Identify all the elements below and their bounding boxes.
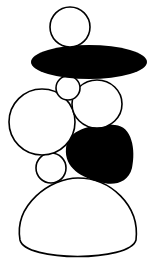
- cairn-illustration: [0, 0, 158, 268]
- small-lower-stone: [36, 153, 66, 183]
- small-middle-stone: [56, 76, 80, 100]
- top-stone: [50, 7, 90, 47]
- black-flat-stone: [31, 45, 147, 79]
